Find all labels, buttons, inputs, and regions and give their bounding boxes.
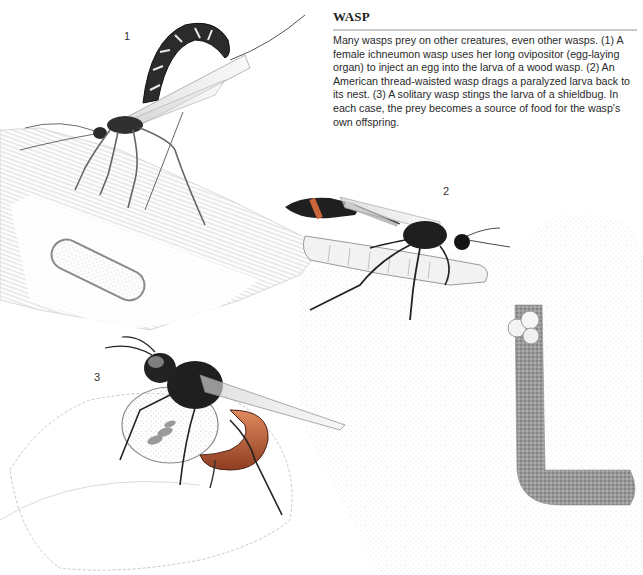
scene-1-ichneumon [0,15,320,330]
scene-2-thread-waisted [285,197,643,575]
scene-3-solitary [0,337,345,570]
article-body: Many wasps prey on other creatures, even… [333,33,637,128]
illustration-label-3: 3 [94,371,100,383]
illustration-label-1: 1 [124,30,130,42]
article-title: WASP [333,9,637,27]
illustration-label-2: 2 [443,185,449,197]
title-rule [333,29,637,31]
article-block: WASP Many wasps prey on other creatures,… [333,9,637,128]
